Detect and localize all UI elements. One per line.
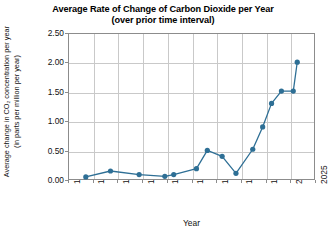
- series-line: [86, 62, 297, 177]
- data-point-marker: [171, 172, 176, 177]
- y-tick-label: 1.50: [24, 87, 64, 97]
- data-point-marker: [205, 148, 210, 153]
- y-axis-label: Average change in CO₂ concentration per …: [2, 22, 21, 182]
- y-tick-label: 0.50: [24, 146, 64, 156]
- y-tick-label: 2.50: [24, 28, 64, 38]
- data-point-marker: [260, 124, 265, 129]
- plot-area: [68, 33, 315, 180]
- chart-subtitle: (over prior time interval): [0, 15, 326, 26]
- data-point-marker: [295, 60, 300, 65]
- chart-title: Average Rate of Change of Carbon Dioxide…: [0, 4, 326, 15]
- y-axis-label-wrap: Average change in CO₂ concentration per …: [0, 30, 24, 190]
- data-point-marker: [108, 168, 113, 173]
- data-point-marker: [162, 174, 167, 179]
- data-point-marker: [279, 88, 284, 93]
- data-point-marker: [233, 171, 238, 176]
- data-point-marker: [194, 166, 199, 171]
- data-point-marker: [220, 154, 225, 159]
- y-tick-label: 1.00: [24, 116, 64, 126]
- data-point-marker: [269, 101, 274, 106]
- data-series-co2-rate: [69, 34, 316, 181]
- x-tick-label: 2025: [319, 165, 329, 184]
- data-point-marker: [83, 174, 88, 179]
- y-tick-label: 0.00: [24, 175, 64, 185]
- y-tick-label: 2.00: [24, 57, 64, 67]
- data-point-marker: [291, 88, 296, 93]
- x-axis-label: Year: [68, 218, 315, 228]
- data-point-marker: [137, 172, 142, 177]
- data-point-marker: [250, 147, 255, 152]
